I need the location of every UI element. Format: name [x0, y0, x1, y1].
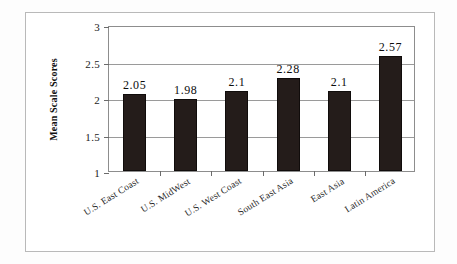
y-tick-label: 2.5 [85, 58, 100, 70]
x-tick-mark [365, 171, 366, 176]
plot-area: 32.521.512.051.982.12.282.12.57 [108, 26, 415, 172]
x-tick-mark [211, 171, 212, 176]
y-axis-title: Mean Scale Scores [44, 26, 62, 172]
bar-value-label: 2.05 [123, 78, 146, 93]
y-tick-label: 2 [94, 94, 100, 106]
y-tick-label: 3 [94, 21, 100, 33]
bar [123, 94, 146, 171]
gridline [109, 100, 414, 101]
y-axis-title-text: Mean Scale Scores [48, 58, 59, 141]
bar [174, 99, 197, 171]
bar [328, 91, 351, 171]
x-tick-mark [160, 171, 161, 176]
bar-value-label: 2.28 [276, 62, 299, 77]
bar [225, 91, 248, 171]
y-tick-mark [104, 27, 109, 28]
bar-value-label: 1.98 [174, 83, 197, 98]
y-tick-label: 1 [94, 167, 100, 179]
bar-value-label: 2.1 [229, 75, 246, 90]
bar-value-label: 2.57 [379, 40, 402, 55]
y-tick-mark [104, 100, 109, 101]
y-tick-label: 1.5 [85, 131, 100, 143]
bar-value-label: 2.1 [331, 75, 348, 90]
gridline [109, 64, 414, 65]
gridline [109, 137, 414, 138]
y-tick-mark [104, 173, 109, 174]
x-tick-mark [263, 171, 264, 176]
chart-figure: Mean Scale Scores 32.521.512.051.982.12.… [0, 0, 457, 264]
y-tick-mark [104, 137, 109, 138]
x-tick-mark [314, 171, 315, 176]
bar [277, 78, 300, 171]
y-tick-mark [104, 64, 109, 65]
bar [379, 56, 402, 171]
